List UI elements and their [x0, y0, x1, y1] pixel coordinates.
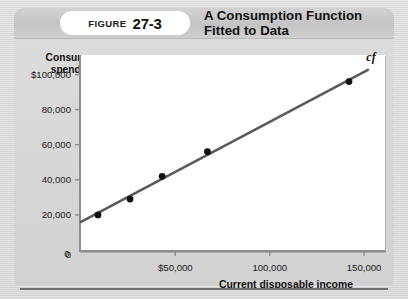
x-tick-label: 0 [64, 248, 69, 259]
cf-curve-annotation: cf [366, 50, 375, 65]
y-tick-label: 80,000 [14, 104, 71, 115]
x-tick-label: $50,000 [158, 262, 193, 273]
figure-page: Figure 27-3 A Consumption Function Fitte… [0, 0, 408, 299]
bottom-divider [20, 288, 388, 290]
axis-ticks [75, 75, 364, 256]
chart-svg [14, 8, 394, 285]
regression-line-group [81, 70, 368, 222]
y-tick-label: 60,000 [14, 139, 71, 150]
figure-card: Figure 27-3 A Consumption Function Fitte… [14, 8, 394, 285]
x-tick-label: 100,000 [252, 262, 287, 273]
y-tick-label: 0 [14, 249, 71, 260]
y-tick-label: 40,000 [14, 174, 71, 185]
y-tick-label: 20,000 [14, 209, 71, 220]
y-tick-label: $100,000 [14, 69, 71, 80]
x-tick-label: 150,000 [347, 262, 382, 273]
